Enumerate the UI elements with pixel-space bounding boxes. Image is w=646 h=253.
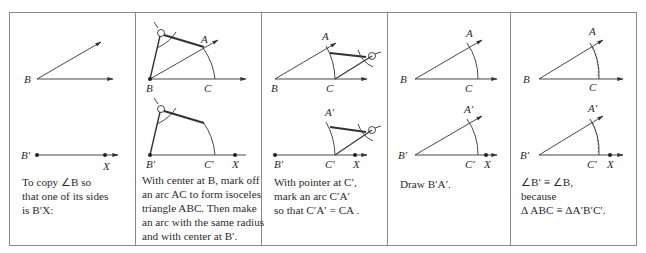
step-4-caption: Draw B′A′. [400,177,451,191]
svg-text:A′: A′ [324,106,335,118]
svg-text:C′: C′ [587,158,597,170]
compass-icon [150,98,204,155]
compass-icon [150,22,204,79]
svg-text:X: X [606,158,615,170]
svg-text:B′: B′ [146,158,156,170]
svg-text:A′: A′ [587,102,598,114]
svg-text:B: B [271,82,278,94]
svg-text:A: A [321,30,329,42]
svg-text:C: C [204,82,212,94]
svg-text:C: C [465,82,473,94]
construction-figure: B B′ X A B C B′ C′ X A B C A′ B′ C′ X A … [0,0,646,253]
svg-text:A: A [465,27,473,39]
svg-text:X: X [102,160,111,172]
svg-text:B′: B′ [520,149,530,161]
svg-text:B: B [24,73,31,85]
step-3-caption: With pointer at C′, mark an arc C′A′ so … [274,175,359,217]
svg-text:C: C [589,81,597,93]
svg-text:A′: A′ [463,103,474,115]
svg-text:C: C [326,82,334,94]
step-5-caption: ∠B′ ≡ ∠B, because Δ ABC ≡ ΔA′B′C′. [521,175,606,217]
svg-text:X: X [231,158,240,170]
svg-text:C′: C′ [204,158,214,170]
svg-text:B′: B′ [21,149,31,161]
svg-text:X: X [483,158,492,170]
svg-text:B: B [523,73,530,85]
panel-1-angle-drawing [37,42,118,155]
svg-text:C′: C′ [325,158,335,170]
svg-text:B: B [146,82,153,94]
panel-2-arc-drawing [150,22,246,155]
svg-text:A: A [588,25,596,37]
svg-text:B: B [400,73,407,85]
panel-4-ray-drawing [415,40,497,155]
svg-text:B′: B′ [398,149,408,161]
point-labels: B B′ X A B C B′ C′ X A B C A′ B′ C′ X A … [21,25,615,172]
svg-text:X: X [352,158,361,170]
panel-5-congruence-drawing [539,40,623,155]
svg-text:C′: C′ [465,158,475,170]
panel-3-arc-drawing [275,43,381,155]
step-1-caption: To copy ∠B so that one of its sides is B… [22,175,108,217]
svg-text:B′: B′ [274,158,284,170]
svg-text:A: A [200,33,208,45]
step-2-caption: With center at B, mark off an arc AC to … [142,173,264,243]
